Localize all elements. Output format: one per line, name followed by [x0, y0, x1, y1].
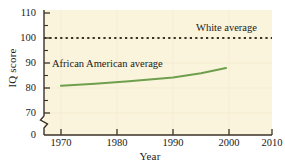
x-tick-label-1970: 1970 [44, 137, 78, 148]
x-axis-title: Year [110, 150, 190, 162]
y-axis-title: IQ score [6, 40, 18, 96]
x-tick-label-1990: 1990 [156, 137, 190, 148]
x-tick-label-1980: 1980 [100, 137, 134, 148]
iq-score-line-chart: 110 100 90 80 70 0 1970 1980 1990 2000 2… [0, 0, 285, 168]
white-average-label: White average [196, 22, 257, 33]
x-tick-label-2000: 2000 [212, 137, 246, 148]
african-american-average-label: African American average [52, 58, 163, 69]
y-tick-label-0: 0 [10, 129, 36, 140]
y-tick-label-110: 110 [10, 7, 36, 18]
y-tick-label-70: 70 [10, 107, 36, 118]
x-tick-label-2010: 2010 [255, 137, 285, 148]
